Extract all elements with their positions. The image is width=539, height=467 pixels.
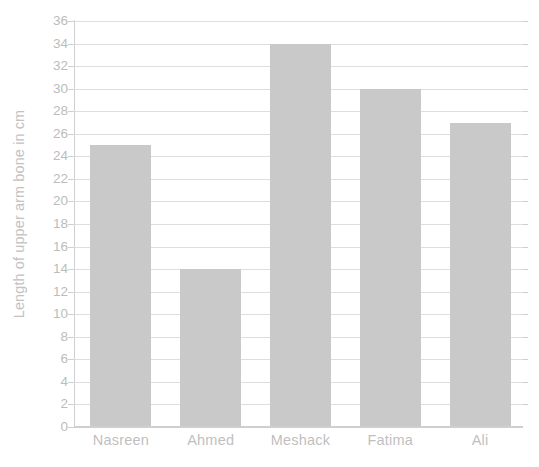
y-axis-tick-mark	[68, 247, 74, 248]
gridline-end-tick	[523, 179, 528, 180]
y-axis-title: Length of upper arm bone in cm	[0, 0, 38, 427]
gridline-end-tick	[523, 269, 528, 270]
y-axis-tick-mark	[68, 156, 74, 157]
y-axis-tick-label: 16	[38, 240, 68, 254]
y-axis-tick-label: 2	[38, 398, 68, 412]
y-axis-tick-label: 18	[38, 217, 68, 231]
y-axis-tick-label: 22	[38, 172, 68, 186]
gridline	[74, 427, 523, 428]
gridline-end-tick	[523, 359, 528, 360]
bar-ali	[450, 123, 511, 428]
y-axis-tick-mark	[68, 66, 74, 67]
y-axis-tick-label: 26	[38, 127, 68, 141]
bar-fatima	[360, 89, 421, 427]
y-axis-tick-label: 8	[38, 330, 68, 344]
x-axis-category-label: Nasreen	[93, 432, 149, 448]
y-axis-tick-labels: 024681012141618202224262830323436	[38, 0, 68, 467]
x-axis-category-label: Ahmed	[187, 432, 234, 448]
gridline-end-tick	[523, 337, 528, 338]
y-axis-tick-label: 14	[38, 262, 68, 276]
y-axis-tick-mark	[68, 269, 74, 270]
gridline-end-tick	[523, 111, 528, 112]
bar-meshack	[270, 44, 331, 427]
y-axis-tick-label: 24	[38, 150, 68, 164]
y-axis-title-text: Length of upper arm bone in cm	[11, 109, 27, 318]
y-axis-tick-mark	[68, 44, 74, 45]
gridline-end-tick	[523, 156, 528, 157]
plot-area	[74, 21, 523, 427]
y-axis-tick-label: 28	[38, 104, 68, 118]
y-axis-tick-label: 10	[38, 307, 68, 321]
gridline-end-tick	[523, 314, 528, 315]
y-axis-tick-label: 0	[38, 420, 68, 434]
y-axis-tick-label: 36	[38, 14, 68, 28]
y-axis-tick-mark	[68, 382, 74, 383]
bar-nasreen	[90, 145, 151, 427]
y-axis-tick-mark	[68, 111, 74, 112]
gridline-end-tick	[523, 224, 528, 225]
gridline-end-tick	[523, 44, 528, 45]
gridline	[74, 21, 523, 22]
y-axis-tick-label: 4	[38, 375, 68, 389]
y-axis-tick-label: 12	[38, 285, 68, 299]
y-axis-tick-label: 30	[38, 82, 68, 96]
x-axis-category-label: Meshack	[271, 432, 330, 448]
y-axis-tick-mark	[68, 337, 74, 338]
y-axis-tick-mark	[68, 21, 74, 22]
y-axis-tick-mark	[68, 224, 74, 225]
y-axis-tick-label: 34	[38, 37, 68, 51]
y-axis-tick-label: 32	[38, 59, 68, 73]
gridline-end-tick	[523, 21, 528, 22]
gridline-end-tick	[523, 382, 528, 383]
y-axis-tick-label: 6	[38, 353, 68, 367]
bar-ahmed	[180, 269, 241, 427]
bar-chart-figure: Length of upper arm bone in cm 024681012…	[0, 0, 539, 467]
x-axis-category-labels: NasreenAhmedMeshackFatimaAli	[74, 432, 523, 462]
gridline-end-tick	[523, 404, 528, 405]
y-axis-tick-mark	[68, 404, 74, 405]
gridline-end-tick	[523, 66, 528, 67]
y-axis-tick-label: 20	[38, 195, 68, 209]
y-axis-tick-mark	[68, 134, 74, 135]
x-axis-category-label: Ali	[472, 432, 489, 448]
x-axis-category-label: Fatima	[368, 432, 414, 448]
gridline-end-tick	[523, 292, 528, 293]
y-axis-tick-mark	[68, 89, 74, 90]
y-axis-tick-mark	[68, 359, 74, 360]
y-axis-tick-mark	[68, 427, 74, 428]
y-axis-tick-mark	[68, 201, 74, 202]
gridline-end-tick	[523, 134, 528, 135]
x-axis-line	[74, 426, 523, 427]
y-axis-tick-mark	[68, 179, 74, 180]
gridline-end-tick	[523, 201, 528, 202]
y-axis-tick-mark	[68, 314, 74, 315]
gridline-end-tick	[523, 247, 528, 248]
gridline-end-tick	[523, 89, 528, 90]
y-axis-tick-mark	[68, 292, 74, 293]
